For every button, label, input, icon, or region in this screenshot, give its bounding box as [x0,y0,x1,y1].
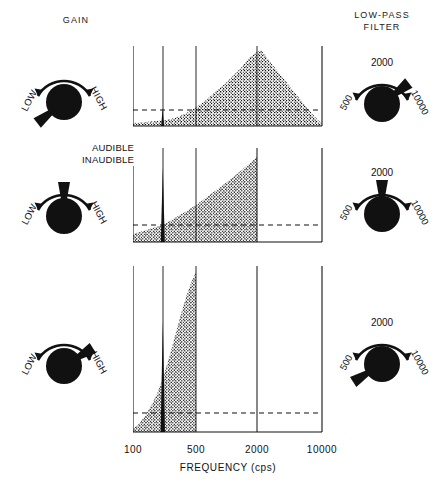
filter-knob-top-10000-label: 10000 [409,88,430,116]
filter-knob-middle-2000-label: 2000 [371,167,394,178]
tone-spike-top [161,108,164,126]
filter-heading-line1: LOW-PASS [330,9,434,21]
filter-column-heading: LOW-PASS FILTER [330,9,434,33]
spectrum-plot-bottom [133,266,325,436]
xtick-500: 500 [187,444,205,455]
gain-knob-top-low-label: LOW [19,88,39,113]
spectrum-plot-top [133,46,325,130]
spectrum-plot-middle [133,148,325,246]
filter-knob-top-2000-label: 2000 [371,57,394,68]
panel-row-top: LOW HIGH [0,46,440,136]
filter-knob-bottom[interactable]: 2000 500 10000 [334,306,430,392]
inaudible-label: INAUDIBLE [56,154,134,166]
gain-knob-middle-high-label: HIGH [89,199,110,225]
audible-label: AUDIBLE [56,142,134,154]
filter-knob-middle-500-label: 500 [337,203,354,222]
filter-knob-top[interactable]: 2000 500 10000 [334,46,430,132]
gain-column-heading: GAIN [28,14,124,26]
gain-knob-middle-low-label: LOW [19,202,39,226]
filter-heading-line2: FILTER [330,21,434,33]
filter-knob-bottom-10000-label: 10000 [409,348,430,376]
xtick-10000: 10000 [307,444,337,455]
gain-knob-bottom[interactable]: LOW HIGH [16,310,112,396]
gain-knob-bottom-low-label: LOW [19,352,39,376]
xtick-2000: 2000 [245,444,269,455]
gain-knob-middle[interactable]: LOW HIGH [16,160,112,246]
filter-knob-middle[interactable]: 2000 500 10000 [334,156,430,242]
noise-fill-top [133,46,325,126]
threshold-labels: AUDIBLE INAUDIBLE [56,142,134,166]
xtick-100: 100 [124,444,142,455]
filter-knob-bottom-2000-label: 2000 [371,317,394,328]
filter-knob-bottom-500-label: 500 [337,353,354,372]
gain-knob-top[interactable]: LOW HIGH [16,46,112,132]
x-axis: 100 500 2000 10000 FREQUENCY (cps) [0,436,440,482]
panel-row-bottom: LOW HIGH [0,266,440,436]
gain-knob-top-high-label: HIGH [88,85,110,113]
gain-knob-bottom-high-label: HIGH [89,349,110,375]
filter-knob-middle-10000-label: 10000 [409,198,430,226]
audiogram-figure: GAIN LOW-PASS FILTER LOW HIGH [0,0,440,485]
gain-heading-text: GAIN [63,15,89,25]
x-axis-title: FREQUENCY (cps) [133,462,323,473]
tone-spike-middle [161,168,165,242]
filter-knob-top-500-label: 500 [337,93,354,112]
